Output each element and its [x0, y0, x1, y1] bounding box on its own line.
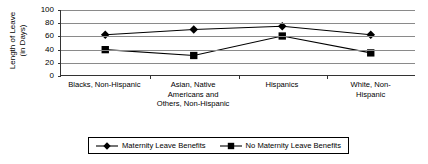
- y-axis-tick-mark: [58, 76, 61, 77]
- diamond-marker-icon: [366, 30, 375, 38]
- x-axis-tick-mark: [239, 75, 240, 79]
- x-axis-category-label-line: White, Non-Hispanic: [348, 80, 392, 99]
- legend-label: Maternity Leave Benefits: [122, 142, 206, 150]
- gridline: [61, 10, 415, 11]
- gridline: [61, 23, 415, 24]
- x-axis-category-label-line: Asian, Native: [157, 80, 230, 90]
- square-marker-icon: [220, 141, 242, 151]
- x-axis-category-label: Blacks, Non-Hispanic: [68, 80, 140, 90]
- x-axis-category-label-line: Americans and: [157, 90, 230, 100]
- x-axis-category-label-line: Hispanics: [265, 80, 298, 90]
- series-line-1: [105, 26, 371, 34]
- legend-label: No Maternity Leave Benefits: [246, 142, 341, 150]
- x-axis-category-label: White, Non-Hispanic: [348, 80, 392, 99]
- legend-item[interactable]: Maternity Leave Benefits: [96, 141, 206, 151]
- legend-item[interactable]: No Maternity Leave Benefits: [220, 141, 341, 151]
- y-axis-tick-label: 100: [41, 6, 54, 14]
- y-axis-tick-label: 80: [45, 19, 54, 27]
- chart-figure: Length of Leave (in Days) 100806040200 B…: [0, 0, 428, 164]
- x-axis-tick-mark: [327, 75, 328, 79]
- chart-legend: Maternity Leave BenefitsNo Maternity Lea…: [88, 137, 349, 154]
- x-axis-tick-mark: [150, 75, 151, 79]
- plot-area: [60, 10, 415, 76]
- x-axis-category-label: Hispanics: [265, 80, 298, 90]
- y-axis-tick-label: 40: [45, 46, 54, 54]
- series-lines-svg: [61, 10, 415, 75]
- diamond-marker-icon: [101, 30, 110, 38]
- x-axis-category-labels: Blacks, Non-HispanicAsian, NativeAmerica…: [60, 80, 415, 126]
- diamond-marker-icon: [189, 25, 198, 33]
- y-axis-tick-label: 0: [50, 72, 54, 80]
- y-axis-title-line1: Length of Leave: [9, 11, 19, 68]
- gridline: [61, 50, 415, 51]
- series-line-2: [105, 36, 371, 56]
- x-axis-category-label-line: Blacks, Non-Hispanic: [68, 80, 140, 90]
- diamond-marker-icon: [96, 141, 118, 151]
- y-axis-tick-labels: 100806040200: [30, 10, 58, 76]
- gridline: [61, 36, 415, 37]
- y-axis-tick-label: 60: [45, 32, 54, 40]
- x-axis-category-label-line: Others, Non-Hispanic: [157, 99, 230, 109]
- y-axis-title-line2: (in Days): [18, 11, 28, 68]
- square-marker-icon: [190, 52, 197, 59]
- gridline: [61, 63, 415, 64]
- x-axis-category-label: Asian, NativeAmericans andOthers, Non-Hi…: [157, 80, 230, 109]
- y-axis-tick-label: 20: [45, 59, 54, 67]
